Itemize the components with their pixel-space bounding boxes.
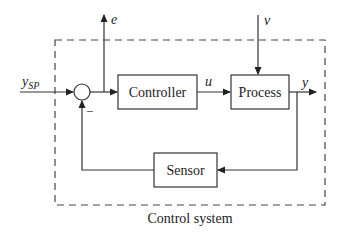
error-label: e (111, 12, 117, 27)
output-label: y (300, 75, 309, 90)
sensor-label: Sensor (166, 163, 204, 178)
setpoint-label: ySP (20, 74, 39, 91)
controller-label: Controller (129, 85, 187, 100)
feedback-sign: − (86, 104, 93, 119)
boundary-label: Control system (147, 211, 232, 226)
control-block-diagram: Controller Process Sensor ySP e u v y − … (0, 0, 344, 237)
disturbance-label: v (264, 13, 271, 28)
summing-junction (74, 84, 90, 100)
control-signal-label: u (205, 74, 212, 89)
process-label: Process (239, 85, 282, 100)
